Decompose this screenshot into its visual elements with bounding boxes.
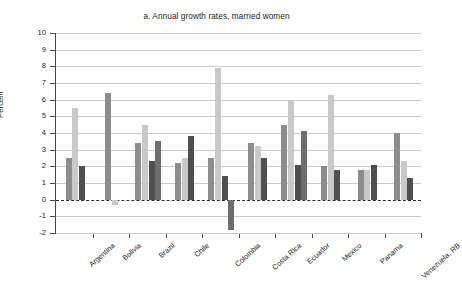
bar-chile-1	[175, 163, 181, 200]
x-category-label-ecuador: Ecuador	[305, 241, 331, 266]
bar-venezuela-rb-1	[394, 133, 400, 200]
x-category-label-brazil: Brazil	[156, 241, 176, 260]
gridline-9	[56, 50, 421, 51]
gridline--2	[56, 233, 421, 234]
y-tick-label--1: -1	[20, 211, 46, 220]
y-tick-label--2: -2	[20, 228, 46, 237]
y-tick-label-6: 6	[20, 95, 46, 104]
bar-colombia-1	[208, 158, 214, 200]
x-category-label-bolivia: Bolivia	[121, 241, 143, 262]
bar-colombia-4	[228, 200, 234, 230]
gridline-7	[56, 83, 421, 84]
bar-venezuela-rb-2	[401, 161, 407, 199]
bar-colombia-2	[215, 68, 221, 200]
bar-colombia-3	[222, 176, 228, 199]
y-tick-label-4: 4	[20, 128, 46, 137]
bar-brazil-4	[155, 141, 161, 199]
bar-ecuador-3	[295, 165, 301, 200]
bar-brazil-1	[135, 143, 141, 200]
y-tick-label-10: 10	[20, 28, 46, 37]
bar-bolivia-2	[112, 200, 118, 205]
bar-argentina-3	[79, 166, 85, 199]
y-tick-label-9: 9	[20, 45, 46, 54]
x-category-label-argentina: Argentina	[87, 241, 117, 269]
y-tick-label-2: 2	[20, 161, 46, 170]
bar-costa-rica-1	[248, 143, 254, 200]
bar-mexico-1	[321, 166, 327, 199]
bar-brazil-2	[142, 125, 148, 200]
gridline-8	[56, 66, 421, 67]
gridline-10	[56, 33, 421, 34]
bar-ecuador-1	[281, 125, 287, 200]
bar-panama-3	[371, 165, 377, 200]
bar-costa-rica-3	[261, 158, 267, 200]
y-tick-label-1: 1	[20, 178, 46, 187]
x-category-label-costa-rica: Costa Rica	[270, 241, 303, 272]
zero-reference-line	[56, 200, 421, 201]
x-category-label-panama: Panama	[378, 241, 404, 266]
bar-mexico-2	[328, 95, 334, 200]
bar-argentina-1	[66, 158, 72, 200]
y-tick-label-5: 5	[20, 111, 46, 120]
x-category-label-colombia: Colombia	[233, 241, 262, 269]
bar-mexico-3	[334, 170, 340, 200]
x-category-label-mexico: Mexico	[340, 241, 363, 263]
bar-panama-1	[358, 170, 364, 200]
plot-area	[56, 33, 421, 233]
y-tick-label-7: 7	[20, 78, 46, 87]
bar-costa-rica-2	[255, 146, 261, 199]
y-tick-label-0: 0	[20, 195, 46, 204]
y-tick-label-3: 3	[20, 145, 46, 154]
y-tick-label-8: 8	[20, 61, 46, 70]
x-category-label-venezuela-rb: Venezuela, RB	[420, 241, 462, 280]
bar-bolivia-1	[105, 93, 111, 200]
bar-ecuador-4	[301, 131, 307, 199]
y-axis-title: Percent	[0, 91, 5, 118]
bar-chile-3	[188, 136, 194, 199]
bar-ecuador-2	[288, 100, 294, 200]
bar-panama-2	[364, 170, 370, 200]
gridline--1	[56, 216, 421, 217]
x-tick-10	[421, 233, 422, 238]
bar-brazil-3	[149, 161, 155, 199]
x-category-label-chile: Chile	[192, 241, 211, 259]
bar-chile-2	[182, 158, 188, 200]
cut-off-header-text	[120, 0, 430, 8]
chart-title: a. Annual growth rates, married women	[0, 12, 433, 21]
bar-venezuela-rb-3	[407, 178, 413, 200]
bar-argentina-2	[72, 108, 78, 200]
